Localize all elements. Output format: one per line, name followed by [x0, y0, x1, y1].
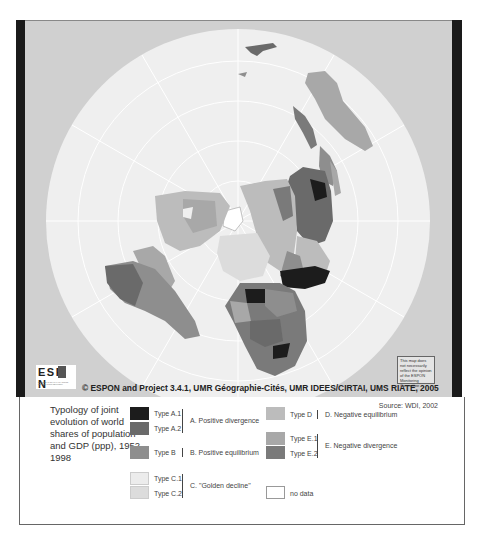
region-libya: [245, 289, 265, 303]
group-label-a: A. Positive divergence: [190, 417, 259, 424]
group-label-d: D. Negative equilibrium: [325, 411, 397, 418]
swatch-type-d: [266, 407, 285, 420]
label-type-d: Type D: [290, 411, 312, 418]
disclaimer-box: This map does not necessarily reflect th…: [397, 356, 435, 384]
swatch-type-a2: [130, 422, 149, 435]
group-label-c: C. "Golden decline": [190, 482, 251, 489]
frame-bar-right: [452, 20, 462, 397]
espon-logo: ESP N EUROPEAN SPATIAL PLANNING OBSERVAT…: [36, 365, 76, 389]
source-note: Source: WDI, 2002: [379, 402, 438, 409]
frame-bar-left: [16, 20, 25, 397]
swatch-type-e2: [266, 446, 285, 459]
swatch-type-e1: [266, 432, 285, 445]
swatch-type-c2: [130, 486, 149, 499]
legend-panel: Typology of joint evolution of world sha…: [19, 397, 465, 525]
label-type-a1: Type A.1: [154, 410, 181, 417]
world-map: [25, 21, 452, 397]
swatch-no-data: [266, 486, 285, 499]
group-label-e: E. Negative divergence: [325, 442, 397, 449]
label-type-a2: Type A.2: [154, 425, 181, 432]
bracket-a: [182, 409, 183, 433]
logo-emblem-icon: [58, 366, 66, 378]
label-type-e2: Type E.2: [290, 450, 318, 457]
swatch-type-c1: [130, 472, 149, 485]
bracket-b: [182, 448, 183, 457]
swatch-type-b: [130, 446, 149, 459]
label-type-c2: Type C.2: [154, 490, 182, 497]
label-type-c1: Type C.1: [154, 475, 182, 482]
label-no-data: no data: [290, 490, 313, 497]
swatch-type-a1: [130, 407, 149, 420]
label-type-e1: Type E.1: [290, 435, 318, 442]
label-type-b: Type B: [154, 449, 176, 456]
copyright-text: © ESPON and Project 3.4.1, UMR Géographi…: [82, 383, 439, 393]
bracket-d: [317, 410, 318, 419]
logo-text: ESP N: [38, 366, 76, 390]
bracket-e: [317, 434, 318, 458]
group-label-b: B. Positive equilibrium: [190, 449, 259, 456]
logo-subtitle: EUROPEAN SPATIAL PLANNING OBSERVATION NE…: [38, 381, 74, 386]
bracket-c: [182, 474, 183, 498]
